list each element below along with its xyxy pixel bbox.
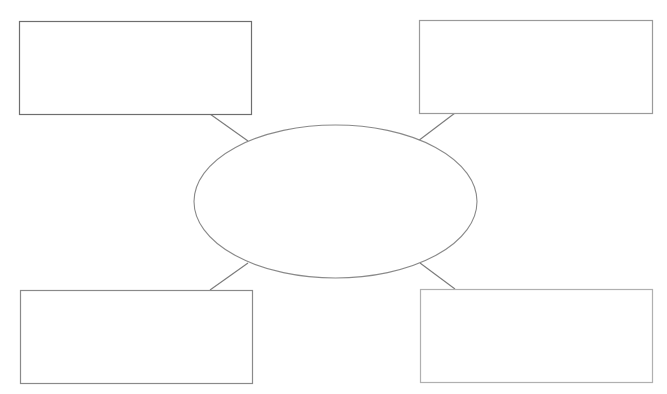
node-box-bottom-right[interactable] <box>421 290 653 383</box>
center-node[interactable] <box>194 125 477 278</box>
connector-top-right <box>418 113 455 141</box>
node-bottom-left[interactable] <box>21 291 253 384</box>
concept-map-diagram <box>0 0 667 394</box>
connector-bottom-right <box>420 263 455 289</box>
center-ellipse[interactable] <box>194 125 477 278</box>
node-box-bottom-left[interactable] <box>21 291 253 384</box>
node-bottom-right[interactable] <box>421 290 653 383</box>
node-top-right[interactable] <box>420 21 653 114</box>
node-box-top-left[interactable] <box>20 22 252 115</box>
node-top-left[interactable] <box>20 22 252 115</box>
connector-top-left <box>210 114 248 141</box>
node-box-top-right[interactable] <box>420 21 653 114</box>
connector-bottom-left <box>210 263 248 290</box>
